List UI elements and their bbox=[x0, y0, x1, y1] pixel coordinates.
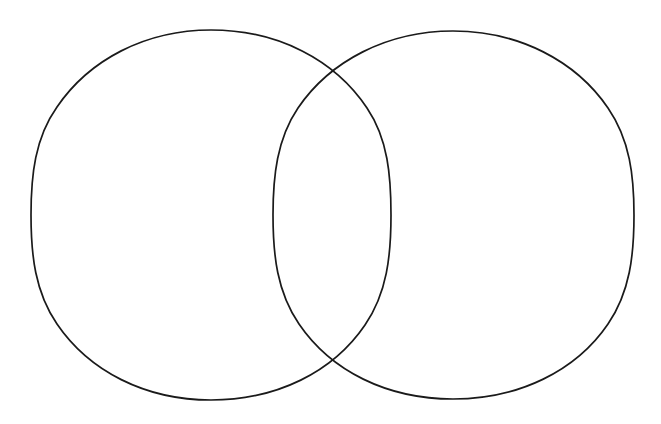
venn-regions-group bbox=[70, 85, 595, 345]
venn-diagram-canvas bbox=[0, 0, 661, 424]
venn-region-intersection[interactable] bbox=[287, 85, 377, 345]
venn-region-right-only[interactable] bbox=[435, 95, 595, 335]
venn-region-left-only[interactable] bbox=[70, 95, 230, 335]
venn-diagram-svg bbox=[0, 0, 661, 424]
